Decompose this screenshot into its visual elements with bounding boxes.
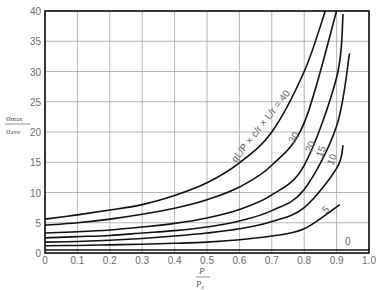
x-tick-label: 0.5	[200, 255, 214, 266]
y-tick-label: 30	[30, 67, 42, 78]
curve-label: 0	[345, 236, 351, 247]
curve-10	[45, 145, 343, 242]
x-tick-label: 0.8	[297, 255, 311, 266]
curve-5	[45, 205, 340, 246]
grid-lines	[45, 11, 369, 253]
x-axis-label: P Pe	[195, 266, 210, 290]
x-tick-label: 1.0	[362, 255, 376, 266]
x-label-numerator: P	[198, 266, 205, 276]
y-axis-label: σmax σave	[5, 113, 30, 136]
y-tick-label: 10	[30, 188, 42, 199]
curve-30	[45, 11, 337, 225]
x-tick-label: 0	[42, 255, 48, 266]
x-axis-ticks: 00.10.20.30.40.50.60.70.80.91.0	[42, 255, 376, 266]
buckling-stress-chart: 00.10.20.30.40.50.60.70.80.91.0 05101520…	[0, 0, 379, 290]
curve-label: 5	[320, 203, 332, 215]
y-label-numerator: σmax	[6, 113, 23, 123]
x-tick-label: 0.2	[103, 255, 117, 266]
y-tick-label: 0	[35, 248, 41, 259]
curve-20	[45, 14, 343, 233]
x-tick-label: 0.1	[70, 255, 84, 266]
y-axis-ticks: 0510152025303540	[30, 6, 42, 259]
x-label-denominator: Pe	[195, 279, 205, 290]
y-tick-label: 5	[35, 218, 41, 229]
curve-label: 10	[325, 152, 340, 167]
y-tick-label: 40	[30, 6, 42, 17]
y-tick-label: 35	[30, 36, 42, 47]
curve-label: qL/P × c/r × L/r = 40	[229, 87, 292, 164]
x-tick-label: 0.9	[330, 255, 344, 266]
x-tick-label: 0.3	[135, 255, 149, 266]
x-tick-label: 0.6	[232, 255, 246, 266]
x-tick-label: 0.4	[168, 255, 182, 266]
y-tick-label: 20	[30, 127, 42, 138]
x-tick-label: 0.7	[265, 255, 279, 266]
y-label-denominator: σave	[6, 126, 20, 136]
y-tick-label: 15	[30, 157, 42, 168]
y-tick-label: 25	[30, 97, 42, 108]
